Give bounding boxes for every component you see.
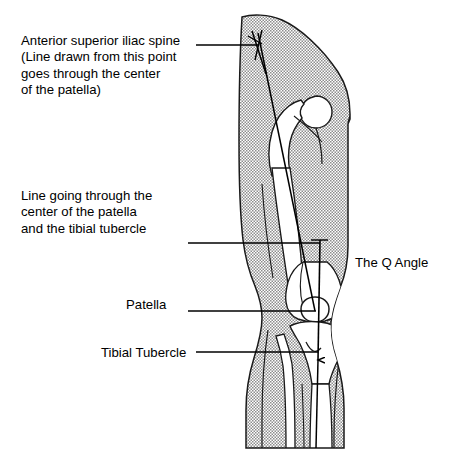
label-tibial-tubercle: Tibial Tubercle xyxy=(101,345,186,361)
label-the-q-angle: The Q Angle xyxy=(355,255,428,271)
label-anterior-superior-iliac-spine: Anterior superior iliac spine (Line draw… xyxy=(21,33,180,99)
label-patella: Patella xyxy=(126,297,166,313)
q-angle-diagram-page: Anterior superior iliac spine (Line draw… xyxy=(0,0,452,463)
label-line-through-patella-and-tubercle: Line going through the center of the pat… xyxy=(21,188,152,237)
